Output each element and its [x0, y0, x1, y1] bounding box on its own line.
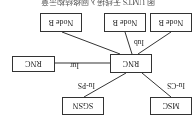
sgsn: SGSN	[62, 97, 104, 115]
node-b-2: Node B	[104, 13, 146, 32]
msc: MSC	[150, 97, 192, 115]
edge-rnc-nodeb-1	[62, 32, 120, 54]
edge-rnc-nodeb-2	[125, 32, 132, 54]
node-b-1: Node B	[40, 13, 82, 32]
node-b-3: Node B	[150, 13, 192, 32]
label-iur: Iur	[70, 61, 79, 70]
rnc-peer: RNC	[12, 56, 55, 72]
label-iu-cs: Iu-CS	[167, 81, 185, 90]
label-iu-ps: Iu-PS	[78, 81, 95, 90]
label-iub: Iub	[134, 38, 144, 47]
network-diagram: 图 UMTS 无线接入网络结构示意 Node B Node B Node B R…	[0, 0, 196, 130]
rnc-main: RNC	[110, 54, 152, 73]
